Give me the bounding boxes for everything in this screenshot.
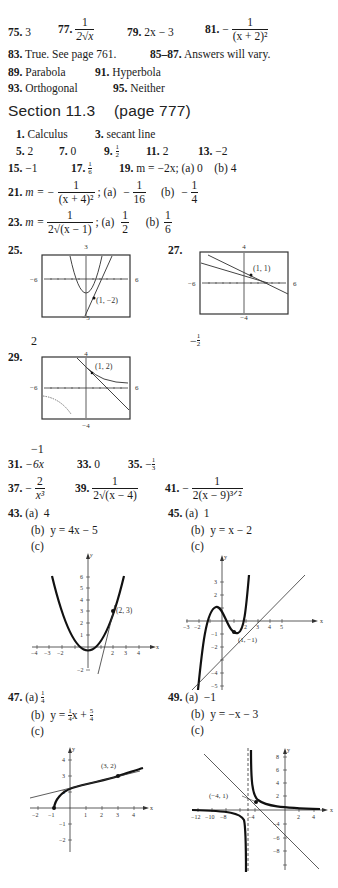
answer-35: 35. −13 — [128, 457, 155, 472]
graph-45: y x −3 −2 2 3 4 5 3 2 −1 −2 −4 −5 (1, −1… — [180, 550, 330, 700]
svg-text:6: 6 — [135, 384, 139, 392]
answer-75: 75. 3 — [8, 27, 31, 39]
section-heading: Section 11.3 (page 777) — [8, 103, 191, 119]
svg-text:x: x — [156, 644, 159, 650]
fraction: 1 2√x — [75, 17, 94, 42]
answer-27-label: 27. — [168, 245, 182, 257]
svg-text:y: y — [72, 746, 75, 752]
answer-1: 1. Calculus — [16, 129, 68, 141]
svg-text:−1: −1 — [59, 821, 65, 827]
svg-text:1: 1 — [84, 812, 87, 818]
answer-7: 7. 0 — [59, 146, 76, 158]
svg-text:2: 2 — [214, 592, 217, 598]
answer-85-87: 85–87. Answers will vary. — [150, 49, 270, 61]
svg-text:−2: −2 — [77, 667, 83, 673]
answer-45: 45. (a) 1 (b) y = x − 2 (c) — [168, 508, 252, 553]
graph-27: 4 −4 −6 6 (1, 1) — [186, 240, 302, 322]
answer-83: 83. True. See page 761. — [8, 49, 116, 61]
svg-text:3: 3 — [80, 608, 83, 614]
svg-text:2: 2 — [297, 814, 300, 820]
svg-text:−2: −2 — [32, 812, 38, 818]
svg-text:4: 4 — [268, 624, 271, 630]
svg-text:4: 4 — [62, 757, 65, 763]
svg-text:(1, 2): (1, 2) — [95, 362, 113, 371]
svg-text:y: y — [224, 554, 227, 560]
answer-27-slope: −12 — [190, 333, 200, 348]
svg-text:x: x — [330, 807, 333, 813]
svg-text:−6: −6 — [30, 384, 38, 392]
answer-39: 39. 12√(x − 4) — [75, 476, 138, 501]
svg-text:−4: −4 — [211, 670, 217, 676]
svg-text:−4: −4 — [248, 814, 254, 820]
svg-text:3: 3 — [84, 243, 88, 251]
svg-text:(−4, 1): (−4, 1) — [209, 792, 229, 800]
graph-43: y x −4 −3 −2 2 3 4 1 2 3 4 5 6 −2 (2, 3) — [28, 550, 168, 675]
svg-text:4: 4 — [276, 780, 279, 786]
svg-text:−5: −5 — [211, 683, 217, 689]
svg-text:4: 4 — [312, 814, 315, 820]
svg-text:4: 4 — [137, 650, 140, 656]
svg-text:(1, 1): (1, 1) — [253, 264, 271, 273]
answer-93: 93. Orthogonal — [8, 83, 78, 95]
answer-33: 33. 0 — [77, 459, 100, 471]
svg-text:−3: −3 — [183, 624, 189, 630]
svg-text:4: 4 — [242, 243, 246, 251]
svg-text:2: 2 — [276, 793, 279, 799]
svg-text:6: 6 — [80, 574, 83, 580]
answer-77: 77. 1 2√x — [58, 17, 94, 42]
svg-text:6: 6 — [135, 276, 139, 284]
answer-79: 79. 2x − 3 — [127, 27, 174, 39]
svg-text:−10: −10 — [205, 814, 214, 820]
svg-text:y: y — [89, 552, 93, 558]
svg-text:5: 5 — [80, 585, 83, 591]
svg-text:(1, −2): (1, −2) — [96, 296, 118, 305]
graph-49: y x −12 −10 −8 −4 2 4 8 6 4 2 −4 −6 −8 (… — [190, 740, 338, 880]
answer-11: 11. 2 — [146, 146, 168, 158]
svg-text:−2: −2 — [57, 650, 63, 656]
svg-text:−8: −8 — [220, 814, 226, 820]
answer-25-label: 25. — [8, 245, 22, 257]
answer-15: 15. −1 — [8, 163, 38, 175]
svg-text:x: x — [150, 805, 153, 811]
svg-text:−12: −12 — [191, 814, 200, 820]
svg-text:−3: −3 — [44, 650, 50, 656]
answer-43: 43. (a) 4 (b) y = 4x − 5 (c) — [8, 508, 98, 553]
svg-text:6: 6 — [276, 767, 279, 773]
svg-text:3: 3 — [124, 650, 127, 656]
answer-37: 37. − 2x³ — [8, 476, 45, 501]
svg-text:−6: −6 — [188, 280, 196, 288]
graph-47: y x −2 −1 1 2 3 4 4 3 2 −1 −2 (3, 2) — [28, 740, 168, 865]
svg-text:(3, 2): (3, 2) — [101, 762, 117, 770]
answer-47: 47. (a) 14 (b) y = 14x + 54 (c) — [8, 690, 93, 738]
svg-text:1: 1 — [80, 632, 83, 638]
svg-text:−4: −4 — [31, 650, 37, 656]
svg-text:−2: −2 — [211, 644, 217, 650]
answer-19: 19. m = −2x; (a) 0 (b) 4 — [119, 163, 236, 175]
svg-text:−6: −6 — [273, 835, 279, 841]
svg-text:4: 4 — [132, 812, 135, 818]
svg-text:−1: −1 — [48, 812, 54, 818]
answer-9: 9. 12 — [104, 144, 119, 159]
svg-text:5: 5 — [280, 624, 283, 630]
svg-text:(1, −1): (1, −1) — [238, 636, 258, 644]
svg-text:3: 3 — [62, 773, 65, 779]
answer-5: 5. 2 — [16, 146, 33, 158]
svg-text:−4: −4 — [82, 422, 90, 430]
svg-text:−4: −4 — [240, 314, 248, 322]
svg-text:x: x — [320, 618, 323, 624]
svg-text:−2: −2 — [59, 837, 65, 843]
svg-text:−8: −8 — [273, 848, 279, 854]
answer-29-label: 29. — [8, 352, 22, 364]
svg-text:4: 4 — [80, 597, 83, 603]
svg-text:8: 8 — [276, 754, 279, 760]
svg-text:−6: −6 — [30, 276, 38, 284]
answer-49: 49. (a) −1 (b) y = −x − 3 (c) — [168, 692, 258, 737]
answer-41: 41. − 12(x − 9)³ᐟ² — [165, 476, 243, 501]
svg-text:3: 3 — [214, 579, 217, 585]
svg-text:2: 2 — [244, 624, 247, 630]
graph-29: 4 −4 −6 6 (1, 2) — [28, 348, 144, 430]
answer-17: 17. 16 — [71, 161, 92, 176]
answer-91: 91. Hyperbola — [95, 67, 161, 79]
svg-text:−1: −1 — [211, 631, 217, 637]
answer-81: 81. − 1 (x + 2)² — [205, 17, 268, 42]
